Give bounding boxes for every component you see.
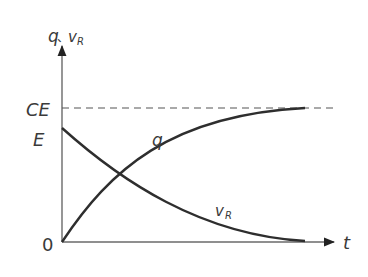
y-axis-label-v-sub: R bbox=[77, 36, 84, 47]
vR-curve bbox=[62, 128, 305, 241]
x-axis-label-t: t bbox=[343, 232, 351, 253]
level-ce-label: CE bbox=[26, 99, 51, 120]
curve-q-label: q bbox=[152, 130, 163, 150]
charging-curves-diagram: q 、 v R t 0 CE E q v R bbox=[0, 0, 368, 277]
curve-vR-label: v bbox=[215, 202, 225, 220]
level-e-label: E bbox=[33, 129, 45, 150]
q-curve bbox=[62, 108, 305, 242]
origin-label: 0 bbox=[42, 234, 53, 255]
curve-vR-label-sub: R bbox=[225, 210, 232, 221]
